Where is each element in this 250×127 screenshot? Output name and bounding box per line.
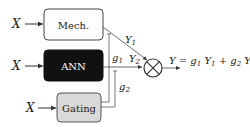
svg-text:X: X <box>11 17 21 31</box>
ann-block: ANN <box>44 50 103 81</box>
svg-text:ANN: ANN <box>60 61 86 72</box>
svg-text:Mech.: Mech. <box>58 20 89 31</box>
svg-text:Y2: Y2 <box>129 53 141 66</box>
mixture-of-experts-diagram: X X X Mech. ANN Gating Y1 Y2 <box>0 0 250 127</box>
signal-y1: Y1 <box>103 27 147 60</box>
mech-block: Mech. <box>44 9 103 40</box>
output-signal: Y = g1 Y1 + g2 Y2 <box>162 55 250 68</box>
multiply-circle-icon <box>144 59 162 77</box>
svg-text:g1: g1 <box>112 52 123 65</box>
input-x-gating: X <box>25 101 56 115</box>
svg-text:Gating: Gating <box>62 103 97 114</box>
input-x-mech: X <box>11 17 43 31</box>
svg-text:g2: g2 <box>119 81 130 94</box>
svg-text:X: X <box>11 59 21 73</box>
svg-text:X: X <box>25 101 35 115</box>
gating-block: Gating <box>57 93 101 122</box>
input-x-ann: X <box>11 59 43 73</box>
output-equation: Y = g1 Y1 + g2 Y2 <box>169 55 250 68</box>
